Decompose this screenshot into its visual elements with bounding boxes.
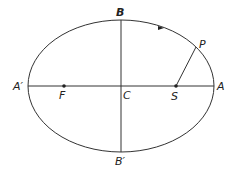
focus-f-dot [62,84,66,88]
focus-s-dot [174,84,178,88]
radius-s-p [176,47,196,86]
label-a: A [216,80,225,93]
label-s: S [171,90,178,103]
label-f: F [59,89,66,102]
ellipse-diagram: B B′ A A′ C F S P [0,0,234,172]
label-p: P [199,38,206,51]
label-b: B [116,6,124,19]
label-a-prime: A′ [12,80,24,93]
label-c: C [123,89,131,102]
label-b-prime: B′ [115,155,126,168]
